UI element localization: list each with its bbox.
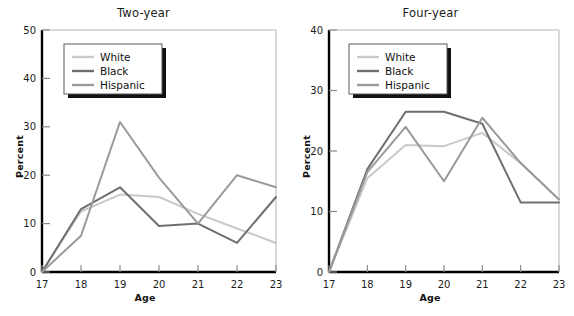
data-lines-four-year <box>329 112 559 272</box>
x-tick-label: 17 <box>36 279 49 290</box>
x-tick-label: 22 <box>231 279 244 290</box>
legend-label-hispanic: Hispanic <box>385 79 430 91</box>
legend-four-year: WhiteBlackHispanic <box>349 44 451 98</box>
y-tick-label: 50 <box>23 25 36 36</box>
legend-label-white: White <box>100 51 131 63</box>
y-tick-label: 0 <box>317 267 323 278</box>
x-tick-label: 18 <box>361 279 374 290</box>
data-lines-two-year <box>42 122 276 272</box>
y-tick-label: 40 <box>23 73 36 84</box>
x-tick-label: 23 <box>553 279 566 290</box>
y-tick-label: 30 <box>23 121 36 132</box>
x-tick-label: 17 <box>323 279 336 290</box>
y-axis-label-four-year: Percent <box>301 135 312 178</box>
y-axis-label-two-year: Percent <box>14 135 25 178</box>
legend-label-black: Black <box>100 65 129 77</box>
chart-svg-four-year: 010203040 17181920212223 WhiteBlackHispa… <box>287 0 574 316</box>
legend-two-year: WhiteBlackHispanic <box>64 44 166 98</box>
x-tick-label: 19 <box>399 279 412 290</box>
x-axis-label-four-year: Age <box>419 292 440 303</box>
legend-label-white: White <box>385 51 416 63</box>
panel-four-year: Four-year 010203040 17181920212223 White… <box>287 0 574 316</box>
plot-area-four-year: 010203040 17181920212223 WhiteBlackHispa… <box>287 0 574 316</box>
y-tick-label: 20 <box>23 170 36 181</box>
y-tick-label: 40 <box>310 25 323 36</box>
chart-svg-two-year: 01020304050 17181920212223 WhiteBlackHis… <box>0 0 287 316</box>
x-ticks-two-year: 17181920212223 <box>36 265 283 290</box>
y-tick-label: 0 <box>30 267 36 278</box>
y-tick-label: 10 <box>310 206 323 217</box>
y-tick-label: 30 <box>310 85 323 96</box>
x-tick-label: 21 <box>192 279 205 290</box>
data-series-line-white <box>42 195 276 272</box>
y-ticks-four-year: 010203040 <box>310 25 337 278</box>
x-tick-label: 22 <box>514 279 527 290</box>
y-tick-label: 20 <box>310 146 323 157</box>
x-tick-label: 21 <box>476 279 489 290</box>
y-ticks-two-year: 01020304050 <box>23 25 50 278</box>
x-tick-label: 20 <box>153 279 166 290</box>
x-tick-label: 18 <box>75 279 88 290</box>
legend-label-hispanic: Hispanic <box>100 79 145 91</box>
plot-area-two-year: 01020304050 17181920212223 WhiteBlackHis… <box>0 0 287 316</box>
legend-label-black: Black <box>385 65 414 77</box>
x-tick-label: 23 <box>270 279 283 290</box>
x-tick-label: 19 <box>114 279 127 290</box>
panel-two-year: Two-year 01020304050 17181920212223 Whit… <box>0 0 287 316</box>
data-series-line-hispanic <box>329 118 559 272</box>
y-tick-label: 10 <box>23 218 36 229</box>
x-axis-label-two-year: Age <box>134 292 155 303</box>
x-ticks-four-year: 17181920212223 <box>323 265 566 290</box>
x-tick-label: 20 <box>438 279 451 290</box>
two-panel-line-chart-figure: Two-year 01020304050 17181920212223 Whit… <box>0 0 574 316</box>
data-series-line-black <box>329 112 559 272</box>
